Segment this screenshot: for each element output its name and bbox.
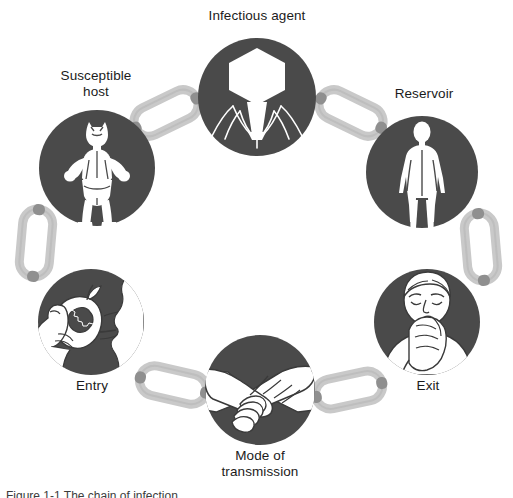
figure-caption: Figure 1-1 The chain of infection. [6,489,336,498]
node-infectious-agent[interactable] [198,38,316,156]
node-mode-of-transmission[interactable] [205,335,315,445]
node-entry[interactable] [34,269,144,375]
chain-of-infection-figure: Infectious agent Reservoir Exit Mode of … [0,0,513,498]
label-exit: Exit [388,378,468,394]
node-exit[interactable] [374,269,480,378]
node-susceptible-host[interactable] [39,110,155,229]
link-exit-to-transmission [308,367,391,413]
link-entry-to-host [18,203,55,283]
label-susceptible-host: Susceptible host [36,68,156,99]
label-mode-of-transmission: Mode of transmission [190,448,330,479]
label-infectious-agent: Infectious agent [177,8,337,24]
link-transmission-to-entry [132,362,215,409]
link-reservoir-to-exit [463,207,500,287]
label-entry: Entry [52,378,132,394]
label-reservoir: Reservoir [364,86,484,102]
